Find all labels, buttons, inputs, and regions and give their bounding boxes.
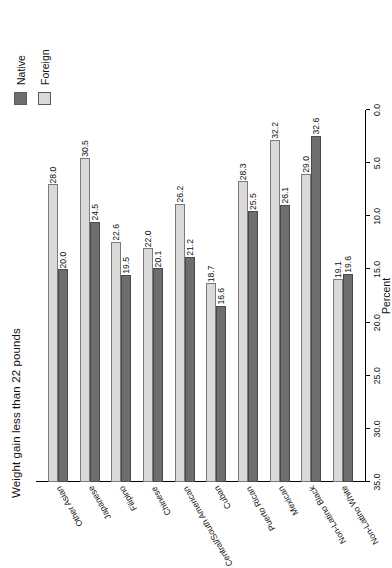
axis-tick [366, 375, 370, 376]
bar-value-label: 29.0 [301, 156, 311, 173]
bar-foreign: 28.0 [48, 184, 58, 482]
bar-native: 19.6 [343, 274, 353, 482]
bar-value-label: 20.0 [58, 252, 68, 269]
bar-value-label: 19.1 [333, 261, 343, 278]
bar-row: 20.0 [58, 110, 68, 482]
bar-value-label: 28.3 [238, 163, 248, 180]
bar-foreign: 30.5 [80, 158, 90, 482]
bar-foreign: 22.6 [111, 242, 121, 482]
bar-group: Non-Latino Black29.032.6 [296, 110, 328, 482]
bar-group: Central/South American26.221.2 [169, 110, 201, 482]
bar-group: Chinese22.020.1 [137, 110, 169, 482]
bar-groups: Non-Latino White19.119.6Non-Latino Black… [36, 110, 366, 482]
legend-swatch-foreign [38, 92, 51, 105]
bar-value-label: 16.6 [216, 288, 226, 305]
bar-row: 19.6 [343, 110, 353, 482]
bar-value-label: 20.1 [153, 251, 163, 268]
bar-row: 30.5 [80, 110, 90, 482]
legend-item-foreign: Foreign [38, 49, 51, 105]
bar-group: Japanese30.524.5 [74, 110, 106, 482]
bar-row: 28.0 [48, 110, 58, 482]
axis-tick [366, 481, 370, 482]
bar-row: 20.1 [153, 110, 163, 482]
bar-value-label: 19.5 [121, 257, 131, 274]
bar-row: 22.6 [111, 110, 121, 482]
bar-value-label: 25.5 [248, 193, 258, 210]
bar-group: Filipino22.619.5 [105, 110, 137, 482]
axis-tick [366, 162, 370, 163]
bar-value-label: 32.6 [311, 118, 321, 135]
bar-row: 26.2 [175, 110, 185, 482]
axis-caption-percent: Percent [380, 110, 392, 482]
category-label: Japanese [85, 485, 112, 522]
bar-group: Non-Latino White19.119.6 [327, 110, 359, 482]
bar-row: 26.1 [280, 110, 290, 482]
bar-value-label: 30.5 [80, 140, 90, 157]
bar-row: 18.7 [206, 110, 216, 482]
legend-swatch-native [14, 92, 27, 105]
bar-native: 19.5 [121, 275, 131, 482]
bar-native: 21.2 [185, 257, 195, 482]
axis-tick [366, 215, 370, 216]
legend-label-foreign: Foreign [39, 49, 51, 85]
bar-native: 20.0 [58, 269, 68, 482]
legend-item-native: Native [14, 49, 27, 105]
category-label: Filipino [117, 485, 139, 514]
chart-title: Weight gain less than 22 pounds [10, 328, 22, 498]
bar-value-label: 22.0 [143, 230, 153, 247]
bar-row: 32.6 [311, 110, 321, 482]
bar-foreign: 29.0 [301, 174, 311, 482]
category-label: Mexican [275, 485, 300, 518]
bar-value-label: 32.2 [270, 122, 280, 139]
bar-foreign: 19.1 [333, 279, 343, 482]
bar-row: 22.0 [143, 110, 153, 482]
bar-group: Mexican32.226.1 [264, 110, 296, 482]
bar-row: 25.5 [248, 110, 258, 482]
bar-group: Cuban18.716.6 [200, 110, 232, 482]
bar-foreign: 18.7 [206, 283, 216, 482]
bar-row: 19.5 [121, 110, 131, 482]
bar-row: 16.6 [216, 110, 226, 482]
bar-foreign: 22.0 [143, 248, 153, 482]
bar-value-label: 26.2 [175, 186, 185, 203]
category-label: Chinese [149, 485, 173, 517]
category-label: Cuban [212, 485, 233, 512]
bar-value-label: 26.1 [280, 187, 290, 204]
axis-tick [366, 268, 370, 269]
bar-row: 24.5 [90, 110, 100, 482]
bar-native: 32.6 [311, 136, 321, 482]
bar-group: Other Asian28.020.0 [42, 110, 74, 482]
bar-value-label: 24.5 [90, 204, 100, 221]
bar-native: 26.1 [280, 205, 290, 482]
bar-row: 28.3 [238, 110, 248, 482]
bar-value-label: 21.2 [185, 239, 195, 256]
axis-tick [366, 428, 370, 429]
bar-value-label: 18.7 [206, 266, 216, 283]
bar-native: 24.5 [90, 222, 100, 482]
bar-native: 25.5 [248, 211, 258, 482]
bar-row: 21.2 [185, 110, 195, 482]
axis-tick [366, 322, 370, 323]
bar-row: 19.1 [333, 110, 343, 482]
bar-group: Puerto Rican28.325.5 [232, 110, 264, 482]
bar-foreign: 26.2 [175, 204, 185, 482]
plot-area: Non-Latino White19.119.6Non-Latino Black… [36, 110, 366, 482]
bar-value-label: 28.0 [48, 167, 58, 184]
axis-tick [366, 109, 370, 110]
bar-value-label: 19.6 [343, 256, 353, 273]
bar-native: 16.6 [216, 306, 226, 482]
bar-native: 20.1 [153, 268, 163, 482]
bar-value-label: 22.6 [111, 224, 121, 241]
chart-legend: Native Foreign [14, 49, 51, 105]
bar-row: 32.2 [270, 110, 280, 482]
bar-row: 29.0 [301, 110, 311, 482]
bar-foreign: 32.2 [270, 140, 280, 482]
bar-foreign: 28.3 [238, 181, 248, 482]
legend-label-native: Native [15, 55, 27, 85]
category-label: Other Asian [53, 485, 84, 529]
category-label: Puerto Rican [244, 485, 278, 533]
